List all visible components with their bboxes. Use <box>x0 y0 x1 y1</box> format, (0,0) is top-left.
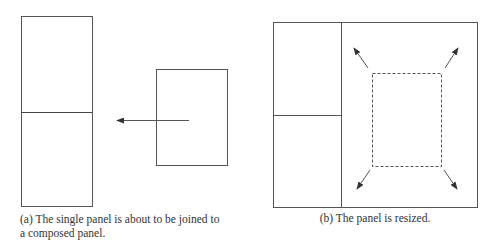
figure-b <box>274 23 478 208</box>
resizing-panel-dashed <box>373 74 442 167</box>
resize-arrow-top-left-icon <box>354 48 368 68</box>
single-panel <box>157 70 228 166</box>
figure-a <box>22 17 228 207</box>
caption-a-line-2: a composed panel. <box>20 226 219 240</box>
composed-panel-outline <box>22 17 93 207</box>
caption-a-line-1: (a) The single panel is about to be join… <box>20 212 219 226</box>
resize-arrow-bottom-right-icon <box>444 170 457 189</box>
caption-b: (b) The panel is resized. <box>273 211 477 225</box>
resize-arrow-bottom-left-icon <box>357 170 370 189</box>
caption-b-line-1: (b) The panel is resized. <box>273 211 477 225</box>
caption-a: (a) The single panel is about to be join… <box>20 212 219 240</box>
resize-arrow-top-right-icon <box>445 48 458 68</box>
composed-panel <box>22 17 93 207</box>
